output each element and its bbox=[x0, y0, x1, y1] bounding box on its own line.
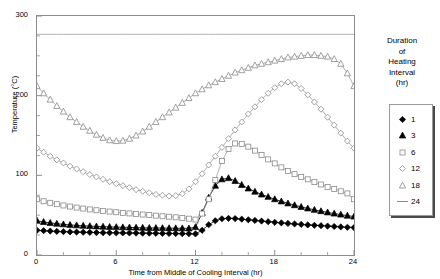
legend-item-label: 18 bbox=[411, 181, 420, 190]
x-tick-label: 18 bbox=[262, 258, 286, 266]
open-triangle-icon bbox=[396, 179, 409, 192]
y-tick-label: 100 bbox=[2, 170, 28, 178]
legend-item-3[interactable]: 3 bbox=[390, 128, 432, 145]
x-tick-label: 24 bbox=[341, 258, 365, 266]
plot-svg bbox=[37, 16, 354, 255]
open-square-icon bbox=[396, 146, 409, 159]
filled-triangle-icon bbox=[396, 129, 409, 142]
legend-title-line: (hr) bbox=[366, 78, 438, 89]
legend-title-line: Heating bbox=[366, 57, 438, 68]
x-tick-label: 0 bbox=[24, 258, 48, 266]
legend-item-label: 6 bbox=[411, 148, 415, 157]
legend-title-line: Duration bbox=[366, 36, 438, 47]
legend-title-line: Interval bbox=[366, 68, 438, 79]
legend-item-label: 3 bbox=[411, 131, 415, 140]
chart-title bbox=[36, 0, 355, 3]
y-axis-label-wrap: Temperature (°C) bbox=[0, 0, 36, 256]
plot-area bbox=[36, 15, 355, 256]
legend-item-label: 1 bbox=[411, 115, 415, 124]
legend-item-12[interactable]: 12 bbox=[390, 161, 432, 178]
legend-title-line: of bbox=[366, 47, 438, 58]
x-axis-label: Time from Middle of Cooling Interval (hr… bbox=[36, 268, 355, 277]
x-tick-label: 12 bbox=[183, 258, 207, 266]
legend-items: 136121824 bbox=[390, 105, 432, 210]
line-dash-icon bbox=[396, 195, 409, 208]
legend-item-6[interactable]: 6 bbox=[390, 144, 432, 161]
legend-title: DurationofHeatingInterval(hr) bbox=[366, 36, 438, 89]
y-axis-label: Temperature (°C) bbox=[10, 35, 19, 175]
legend-item-label: 12 bbox=[411, 164, 420, 173]
open-diamond-icon bbox=[396, 162, 409, 175]
y-tick-label: 0 bbox=[2, 250, 28, 258]
legend-box: 136121824 bbox=[389, 104, 433, 216]
y-tick-label: 300 bbox=[2, 11, 28, 19]
chart-figure: Temperature (°C) Time from Middle of Coo… bbox=[0, 0, 440, 279]
x-tick-label: 6 bbox=[103, 258, 127, 266]
legend-item-24[interactable]: 24 bbox=[390, 194, 432, 211]
data-series-group bbox=[37, 34, 354, 237]
legend-item-18[interactable]: 18 bbox=[390, 177, 432, 194]
legend-item-1[interactable]: 1 bbox=[390, 111, 432, 128]
filled-diamond-icon bbox=[396, 113, 409, 126]
series-18 bbox=[37, 52, 354, 144]
legend-item-label: 24 bbox=[411, 197, 420, 206]
y-tick-label: 200 bbox=[2, 91, 28, 99]
